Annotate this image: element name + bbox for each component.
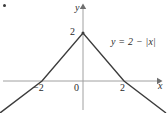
coordinate-plot — [0, 0, 167, 113]
y-axis-arrow-icon — [80, 4, 86, 10]
y-tick-label-2: 2 — [70, 27, 75, 37]
equation-annotation: y = 2 − |x| — [111, 37, 156, 47]
origin-label-zero: 0 — [74, 83, 79, 93]
y-axis-label: y — [75, 3, 79, 13]
x-axis-label: x — [158, 81, 162, 91]
vertex-point — [82, 32, 85, 35]
x-tick-label-pos2: 2 — [120, 83, 125, 93]
graph-figure: y x −2 0 2 2 y = 2 − |x| — [0, 0, 167, 113]
x-tick-label-neg2: −2 — [33, 83, 44, 93]
